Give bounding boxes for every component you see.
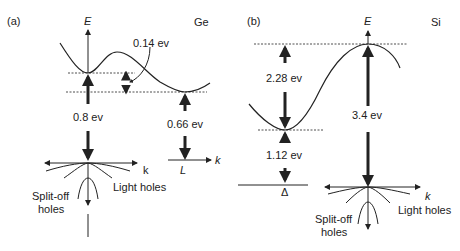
band-structure-diagram [0,0,460,251]
gap-direct-label-b: 3.4 ev [352,110,382,121]
axis-k2-label: k [215,155,221,166]
point-delta-label: Δ [281,187,288,198]
panel-a-tag: (a) [7,16,20,27]
panel-b-tag: (b) [247,16,260,27]
split-off-label-b2: holes [321,227,347,238]
axis-k-label-b: k [425,191,431,202]
split-off-label-1: Split-off [32,191,69,202]
gap-diff-label: 0.14 ev [133,38,169,49]
gap-indirect-label-b: 1.12 ev [266,150,302,161]
conduction-band-curve [60,43,210,92]
panel-a-ge [45,30,211,237]
gap-direct-label: 0.8 ev [73,112,103,123]
gap-top-label: 2.28 ev [266,73,302,84]
split-off-label-2: holes [38,204,64,215]
point-l-label: L [180,165,186,176]
axis-e-label: E [84,16,91,27]
material-ge: Ge [194,17,209,28]
material-si: Si [431,17,441,28]
split-off-label-b1: Split-off [315,214,352,225]
axis-k-label: k [143,165,149,176]
axis-e-label-b: E [364,16,371,27]
gap-indirect-label: 0.66 ev [167,119,203,130]
panel-b-si [238,31,420,229]
light-holes-label: Light holes [113,182,166,193]
light-holes-label-b: Light holes [398,205,451,216]
